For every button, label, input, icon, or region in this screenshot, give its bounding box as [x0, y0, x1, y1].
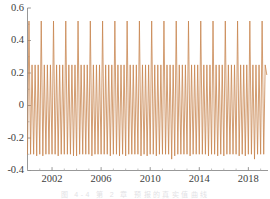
figure-caption: 图 4-4 第 2 章 预报的真实值曲线 — [0, 189, 270, 199]
y-tick-label: 0 — [19, 100, 24, 111]
x-tick-label: 2002 — [32, 174, 72, 185]
y-tick-label: 0.4 — [11, 35, 24, 46]
x-tick-label: 2010 — [130, 174, 170, 185]
x-tick-label: 2006 — [81, 174, 121, 185]
x-axis-ticks — [28, 167, 261, 170]
y-tick-label: 0.6 — [11, 3, 24, 14]
y-tick-label: -0.2 — [7, 133, 24, 144]
series-line-signal — [28, 21, 267, 159]
chart-figure: 0.60.40.20-0.2-0.4 20022006201020142018 … — [0, 0, 270, 199]
x-tick-label: 2018 — [228, 174, 268, 185]
y-tick-label: 0.2 — [11, 68, 24, 79]
chart-plot-area — [0, 0, 270, 199]
y-tick-label: -0.4 — [7, 165, 24, 176]
x-tick-label: 2014 — [179, 174, 219, 185]
